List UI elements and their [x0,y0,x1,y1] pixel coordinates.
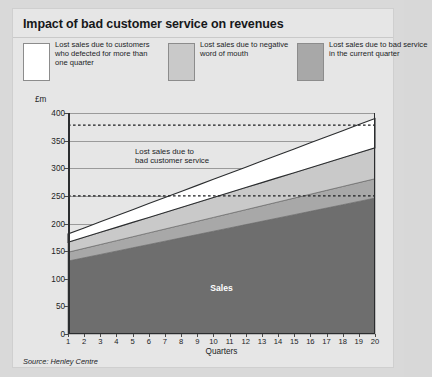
x-tick-label-16: 16 [306,337,314,346]
x-tick-label-9: 9 [195,337,199,346]
x-tick-4 [116,334,117,337]
x-tick-label-13: 13 [258,337,266,346]
legend-swatch-word-of-mouth [168,43,195,81]
x-tick-17 [327,334,328,337]
x-tick-label-18: 18 [338,337,346,346]
legend-item-bad-service: Lost sales due to bad service in the cur… [297,42,407,94]
annotation-line-2: bad customer service [135,156,209,165]
x-tick-20 [375,334,376,337]
plot-area: Sales [68,113,375,334]
x-tick-13 [262,334,263,337]
x-tick-18 [343,334,344,337]
page-title: Impact of bad customer service on revenu… [23,17,383,31]
x-tick-label-1: 1 [66,337,70,346]
x-tick-label-6: 6 [147,337,151,346]
x-tick-12 [246,334,247,337]
x-tick-2 [84,334,85,337]
stacked-area-series [68,113,375,334]
x-tick-label-8: 8 [179,337,183,346]
x-tick-10 [213,334,214,337]
legend-swatch-bad-service [297,43,324,81]
x-tick-label-19: 19 [355,337,363,346]
x-tick-5 [133,334,134,337]
x-tick-label-10: 10 [209,337,217,346]
legend-label-bad-service: Lost sales due to bad service in the cur… [329,41,432,59]
source-note: Source: Henley Centre [23,357,98,366]
y-tick-label-300: 300 [51,164,65,173]
x-tick-label-2: 2 [82,337,86,346]
y-axis-tick-labels: 050100150200250300350400 [25,105,65,345]
legend-item-defected: Lost sales due to customers who defected… [23,42,173,94]
y-tick-label-100: 100 [51,274,65,283]
title-divider [13,37,393,38]
chart-annotation: Lost sales due tobad customer service [135,147,209,165]
x-tick-8 [181,334,182,337]
x-tick-16 [310,334,311,337]
x-axis-tick-labels: 1234567891011121314151617181920 [68,334,375,346]
x-tick-1 [68,334,69,337]
y-tick-label-150: 150 [51,247,65,256]
x-tick-label-11: 11 [226,337,234,346]
x-tick-3 [100,334,101,337]
x-tick-19 [359,334,360,337]
x-tick-label-7: 7 [163,337,167,346]
right-axis-line [374,113,376,334]
x-tick-label-20: 20 [371,337,379,346]
y-tick-label-350: 350 [51,136,65,145]
sales-area-label: Sales [68,283,375,293]
x-tick-label-4: 4 [114,337,118,346]
x-tick-label-3: 3 [98,337,102,346]
legend-label-word-of-mouth: Lost sales due to negative word of mouth [200,41,305,59]
x-tick-6 [149,334,150,337]
x-tick-label-15: 15 [290,337,298,346]
x-tick-label-17: 17 [322,337,330,346]
y-tick-label-250: 250 [51,191,65,200]
x-tick-9 [197,334,198,337]
y-tick-label-200: 200 [51,219,65,228]
y-axis-line [68,113,70,334]
legend-item-word-of-mouth: Lost sales due to negative word of mouth [168,42,298,94]
x-tick-label-14: 14 [274,337,282,346]
legend-label-defected: Lost sales due to customers who defected… [55,41,160,68]
x-tick-label-12: 12 [242,337,250,346]
chart-legend: Lost sales due to customers who defected… [23,42,385,94]
x-tick-11 [230,334,231,337]
y-tick-label-400: 400 [51,109,65,118]
x-tick-7 [165,334,166,337]
chart-panel: Impact of bad customer service on revenu… [12,8,394,368]
x-axis-title: Quarters [68,347,375,356]
y-axis-unit: £m [35,95,46,104]
x-tick-14 [278,334,279,337]
x-tick-label-5: 5 [131,337,135,346]
annotation-line-1: Lost sales due to [135,147,209,156]
legend-swatch-defected [23,43,50,81]
x-tick-15 [294,334,295,337]
